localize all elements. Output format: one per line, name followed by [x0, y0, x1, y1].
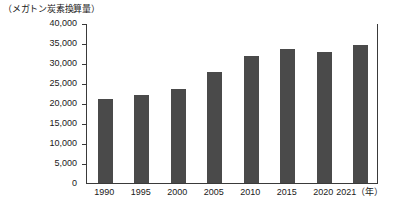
y-axis-tick-label: 35,000	[49, 37, 77, 50]
x-axis-tick-label: 2015	[277, 186, 297, 199]
y-axis-tick-label: 10,000	[49, 137, 77, 150]
x-axis-tick-label: 2000	[167, 186, 187, 199]
x-axis: 19901995200020052010201520202021（年）	[86, 186, 378, 204]
x-axis-tick-label: 2020	[313, 186, 333, 199]
bar	[134, 95, 149, 183]
y-axis-tick-label: 5,000	[54, 157, 77, 170]
x-axis-tick-label: 2021（年）	[336, 186, 383, 199]
bar	[98, 99, 113, 183]
unit-caption: （メガトン炭素換算量）	[3, 3, 100, 15]
x-axis-tick-label: 1995	[131, 186, 151, 199]
bar	[244, 56, 259, 183]
y-axis-tick-label: 15,000	[49, 117, 77, 130]
y-axis-tick-label: 25,000	[49, 77, 77, 90]
plot-area	[86, 24, 378, 184]
x-axis-tick-label: 1990	[94, 186, 114, 199]
bars-layer	[87, 24, 377, 183]
bar	[353, 45, 368, 183]
x-axis-tick-label: 2005	[204, 186, 224, 199]
y-axis-tick-label: 40,000	[49, 17, 77, 30]
y-axis-tick-label: 20,000	[49, 97, 77, 110]
x-axis-tick-label: 2010	[240, 186, 260, 199]
y-axis: 05,00010,00015,00020,00025,00030,00035,0…	[0, 24, 86, 184]
bar-chart: （メガトン炭素換算量） 05,00010,00015,00020,00025,0…	[0, 0, 401, 219]
bar	[171, 89, 186, 183]
bar	[207, 72, 222, 183]
bar	[280, 49, 295, 183]
y-axis-tick-label: 30,000	[49, 57, 77, 70]
y-axis-tick-label: 0	[72, 177, 77, 190]
bar	[317, 52, 332, 183]
